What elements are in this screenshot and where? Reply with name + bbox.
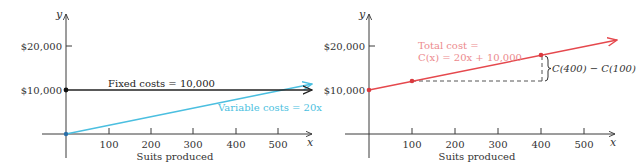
total-cost-label-line2: C(x) = 20x + 10,000 [418, 52, 522, 63]
fixed-cost-label: Fixed costs = 10,000 [108, 78, 215, 89]
y-axis-symbol: y [358, 8, 366, 21]
total-cost-point-0 [367, 88, 372, 93]
y-tick-label-20000: $20,000 [324, 41, 365, 52]
cost-charts: y x $20,000 $10,000 100 200 300 400 500 … [0, 0, 643, 168]
total-cost-point-100 [410, 79, 415, 84]
x-tick-label-100: 100 [402, 139, 421, 150]
x-tick-label-100: 100 [99, 139, 118, 150]
variable-cost-label: Variable costs = 20x [217, 102, 322, 113]
x-tick-label-300: 300 [488, 139, 507, 150]
x-axis-symbol: x [307, 136, 314, 149]
total-cost-chart: y x $20,000 $10,000 100 200 300 400 500 … [324, 8, 636, 162]
y-axis-symbol: y [55, 8, 63, 21]
y-tick-label-20000: $20,000 [21, 41, 62, 52]
total-cost-label-line1: Total cost = [418, 40, 479, 51]
difference-label: C(400) − C(100) [552, 63, 636, 74]
x-axis-title: Suits produced [137, 151, 214, 162]
x-tick-label-500: 500 [268, 139, 287, 150]
total-cost-point-400 [539, 53, 544, 58]
variable-cost-origin-point [64, 132, 68, 136]
x-tick-label-300: 300 [183, 139, 202, 150]
brace-icon [545, 56, 551, 81]
x-axis-title: Suits produced [439, 151, 516, 162]
y-tick-label-10000: $10,000 [324, 85, 365, 96]
fixed-variable-cost-chart: y x $20,000 $10,000 100 200 300 400 500 … [21, 8, 323, 162]
fixed-cost-point [64, 88, 69, 93]
x-axis-symbol: x [610, 136, 617, 149]
x-tick-label-400: 400 [531, 139, 550, 150]
x-tick-label-400: 400 [226, 139, 245, 150]
x-tick-label-500: 500 [574, 139, 593, 150]
y-tick-label-10000: $10,000 [21, 85, 62, 96]
x-tick-label-200: 200 [445, 139, 464, 150]
x-tick-label-200: 200 [141, 139, 160, 150]
